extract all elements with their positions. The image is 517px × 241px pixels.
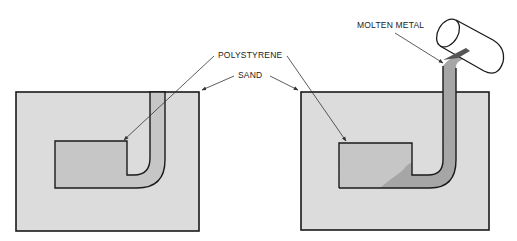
molten-metal-leader bbox=[395, 33, 443, 63]
left-panel bbox=[16, 92, 199, 231]
polystyrene-label: POLYSTYRENE bbox=[218, 50, 283, 60]
right-panel bbox=[301, 15, 504, 230]
sand-label: SAND bbox=[238, 70, 262, 80]
lost-foam-casting-diagram: POLYSTYRENE SAND MOLTEN METAL bbox=[0, 0, 517, 241]
ladle-icon bbox=[432, 15, 504, 73]
sand-leader-left bbox=[202, 76, 234, 90]
molten-metal-label: MOLTEN METAL bbox=[357, 20, 424, 30]
sand-leader-right bbox=[270, 76, 298, 90]
